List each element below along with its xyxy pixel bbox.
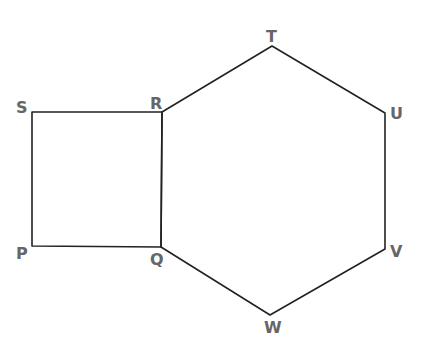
vertex-label-t: T	[266, 27, 277, 46]
vertex-label-s: S	[16, 98, 28, 117]
vertex-label-u: U	[390, 104, 403, 123]
geometry-figure: P Q R S T U V W	[0, 0, 424, 351]
vertex-label-p: P	[16, 244, 28, 263]
vertex-label-q: Q	[150, 250, 164, 269]
square-pqrs	[32, 112, 162, 247]
hexagon-qrtuvw	[161, 46, 385, 315]
vertex-label-v: V	[390, 242, 403, 261]
vertex-label-r: R	[150, 94, 162, 113]
diagram-canvas: P Q R S T U V W	[0, 0, 424, 351]
vertex-label-w: W	[264, 318, 282, 337]
